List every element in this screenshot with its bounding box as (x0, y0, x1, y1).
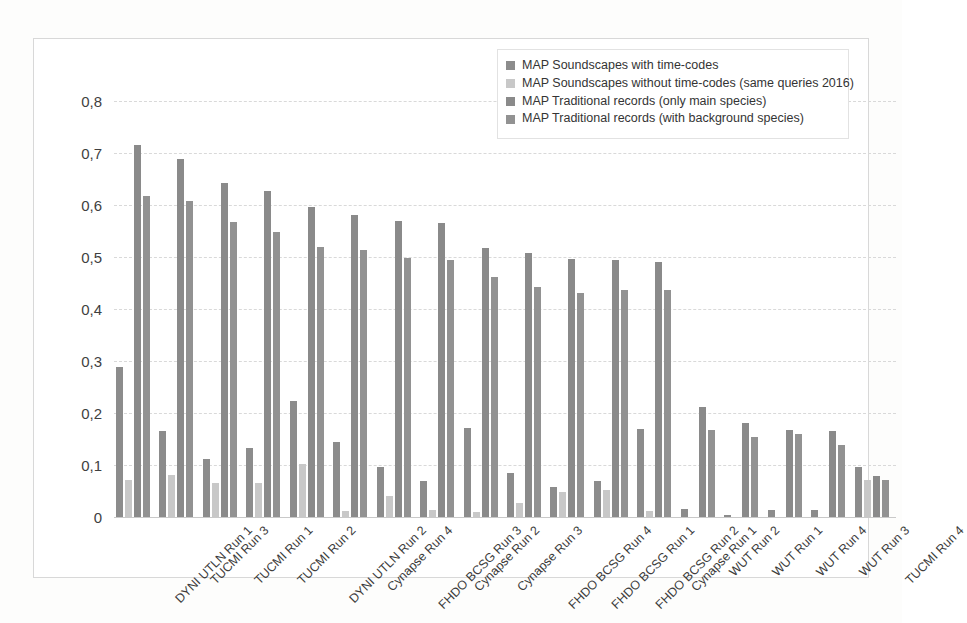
legend-swatch-icon (506, 79, 515, 88)
y-axis-tick-label: 0,8 (81, 94, 102, 109)
bar (525, 253, 532, 517)
bar (655, 262, 662, 517)
bar (273, 232, 280, 517)
bar (168, 475, 175, 517)
bar (550, 487, 557, 517)
bar-group: TUCMI Run 2 (246, 101, 283, 517)
bar (342, 511, 349, 517)
bar (568, 259, 575, 517)
x-axis-tick-label: FHDO BCSG Run 1 (610, 524, 697, 611)
bar-group: Cynapse Run 4 (333, 101, 370, 517)
bar (681, 509, 688, 517)
bar (473, 512, 480, 517)
chart-legend: MAP Soundscapes with time-codesMAP Sound… (497, 49, 849, 139)
bar (203, 459, 210, 517)
bar (290, 401, 297, 517)
bar-group: DYNI UTLN Run 1 (116, 101, 153, 517)
bar (829, 431, 836, 517)
legend-item-label: MAP Traditional records (only main speci… (522, 95, 766, 109)
bar (143, 196, 150, 517)
bar (577, 293, 584, 517)
bar (420, 481, 427, 517)
bar (594, 481, 601, 517)
bar (699, 407, 706, 517)
bar-group: WUT Run 2 (681, 101, 718, 517)
bar (230, 222, 237, 517)
bar (603, 490, 610, 517)
bar (811, 510, 818, 517)
bar (159, 431, 166, 517)
bar (491, 277, 498, 517)
bar (116, 367, 123, 517)
bar-group: WUT Run 3 (811, 101, 848, 517)
bar (377, 467, 384, 517)
bar (855, 467, 862, 517)
y-axis-tick-label: 0,4 (81, 302, 102, 317)
legend-item: MAP Traditional records (with background… (506, 112, 838, 126)
bar (482, 248, 489, 517)
bar (212, 483, 219, 517)
bar (125, 480, 132, 517)
y-axis-tick-label: 0,1 (81, 458, 102, 473)
bar (768, 510, 775, 517)
bar (246, 448, 253, 517)
y-axis-tick-label: 0,5 (81, 250, 102, 265)
bar (333, 442, 340, 517)
bar (360, 250, 367, 517)
plot-area: 0,80,70,60,50,40,30,20,10 DYNI UTLN Run … (114, 101, 896, 517)
bar (724, 515, 731, 517)
y-axis-tick-label: 0,7 (81, 146, 102, 161)
y-axis-tick-label: 0,6 (81, 198, 102, 213)
bar (264, 191, 271, 517)
bar-group: FHDO BCSG Run 1 (550, 101, 587, 517)
bar (873, 476, 880, 517)
bar (559, 492, 566, 517)
bar (221, 183, 228, 517)
bar-group: FHDO BCSG Run 3 (377, 101, 414, 517)
bar (838, 445, 845, 517)
bar-group: DYNI UTLN Run 2 (290, 101, 327, 517)
legend-item: MAP Traditional records (only main speci… (506, 95, 838, 109)
legend-item-label: MAP Traditional records (with background… (522, 112, 804, 126)
bar (351, 215, 358, 517)
x-axis-tick-label: DYNI UTLN Run 1 (173, 524, 255, 606)
bar (317, 247, 324, 517)
legend-item: MAP Soundscapes without time-codes (same… (506, 77, 838, 91)
bar (404, 258, 411, 517)
bar-group: TUCMI Run 4 (855, 101, 892, 517)
bar (742, 423, 749, 517)
bar (612, 260, 619, 517)
bar-group: Cynapse Run 3 (464, 101, 501, 517)
bar (177, 159, 184, 517)
bar (786, 430, 793, 517)
bar-group: FHDO BCSG Run 4 (507, 101, 544, 517)
bar (751, 437, 758, 517)
bar (255, 483, 262, 517)
bar (864, 480, 871, 517)
legend-swatch-icon (506, 97, 515, 106)
x-axis-tick-label: TUCMI Run 4 (904, 524, 967, 587)
bar (447, 260, 454, 517)
legend-item-label: MAP Soundscapes without time-codes (same… (522, 77, 854, 91)
legend-item-label: MAP Soundscapes with time-codes (522, 59, 718, 73)
bar (299, 464, 306, 517)
legend-swatch-icon (506, 115, 515, 124)
bar-group: TUCMI Run 3 (159, 101, 196, 517)
y-axis-tick-label: 0,3 (81, 354, 102, 369)
bar (637, 429, 644, 517)
y-axis-tick-label: 0 (94, 510, 102, 525)
bar (438, 223, 445, 517)
bar (646, 511, 653, 517)
bar (708, 430, 715, 517)
bar-group: FHDO BCSG Run 2 (594, 101, 631, 517)
bar (134, 145, 141, 517)
bar (429, 510, 436, 517)
bar-group: WUT Run 1 (724, 101, 761, 517)
legend-swatch-icon (506, 61, 515, 70)
bar (534, 287, 541, 517)
bar-group: WUT Run 4 (768, 101, 805, 517)
bar (621, 290, 628, 517)
bar (882, 480, 889, 517)
bar (795, 434, 802, 517)
